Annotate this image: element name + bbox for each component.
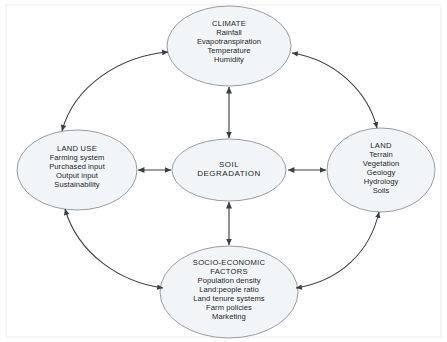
connector-land-use-to-socio-economic — [65, 209, 163, 288]
diagram-svg — [0, 0, 447, 342]
connector-climate-to-land — [292, 53, 377, 128]
node-land-use[interactable] — [17, 130, 137, 210]
node-socio-economic-factors[interactable] — [160, 246, 298, 338]
node-land[interactable] — [327, 128, 435, 212]
connector-land-use-to-climate — [62, 52, 168, 131]
connector-socio-economic-to-land — [296, 212, 379, 288]
node-climate[interactable] — [167, 6, 291, 86]
node-soil-degradation[interactable] — [172, 139, 286, 201]
diagram-canvas: CLIMATE Rainfall Evapotranspiration Temp… — [0, 0, 447, 342]
